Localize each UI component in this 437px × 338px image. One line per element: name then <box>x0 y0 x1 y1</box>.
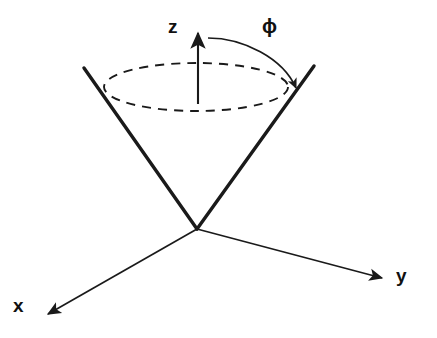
cone-left-edge <box>84 68 197 229</box>
x-axis-line <box>48 229 197 314</box>
cone-diagram-canvas <box>0 0 437 338</box>
cone-base-dashed-circle <box>104 63 288 111</box>
phi-angle-label: ϕ <box>262 16 277 36</box>
cone-diagram-figure: z ϕ y x <box>0 0 437 338</box>
coordinate-axes <box>48 33 382 314</box>
y-axis-label: y <box>396 266 407 285</box>
z-axis-label: z <box>168 17 178 36</box>
y-axis-line <box>197 229 382 278</box>
cone-right-edge <box>197 66 314 229</box>
x-axis-label: x <box>13 296 24 315</box>
